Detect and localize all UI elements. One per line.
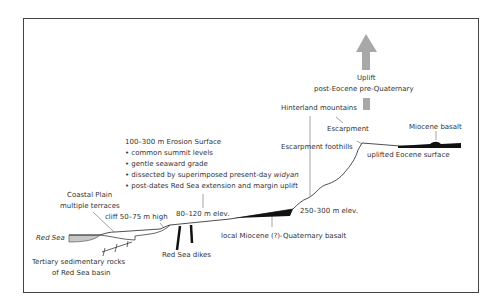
escarpment-leader <box>357 141 362 144</box>
dike-2 <box>191 225 192 243</box>
elev-80-120-label: 80–120 m elev. <box>176 210 229 219</box>
dike-1 <box>177 226 180 250</box>
multiple-terraces-label: multiple terraces <box>60 202 120 211</box>
uplift-arrow-stub <box>363 98 370 110</box>
miocene-basalt-label: Miocene basalt <box>409 123 462 132</box>
escarpment-label: Escarpment <box>327 125 369 134</box>
local-basalt-layer <box>228 209 293 219</box>
escarpment-foothills-label: Escarpment foothills <box>281 143 353 152</box>
erosion-point: • dissected by superimposed present-day … <box>125 171 299 180</box>
erosion-point: • post-dates Red Sea extension and margi… <box>125 182 298 191</box>
red-sea-water <box>69 235 100 242</box>
miocene-basalt-layer <box>398 142 461 148</box>
widyan-term: widyan <box>274 171 299 179</box>
uplift-arrow-icon <box>356 34 377 70</box>
coastal-plain-label: Coastal Plain <box>67 191 112 200</box>
tertiary-label-1: Tertiary sedimentary rocks <box>32 258 125 267</box>
elev-250-300-label: 250–300 m elev. <box>300 207 358 216</box>
uplifted-surface-label: uplifted Eocene surface <box>367 151 450 160</box>
tertiary-label-2: of Red Sea basin <box>52 269 111 278</box>
hinterland-leader <box>336 117 343 123</box>
red-sea-label: Red Sea <box>36 234 65 243</box>
hinterland-label: Hinterland mountains <box>281 104 357 113</box>
red-sea-dikes-label: Red Sea dikes <box>162 251 211 260</box>
fault-marks <box>102 241 132 256</box>
erosion-title: 100–300 m Erosion Surface <box>125 138 221 147</box>
cliff-leader <box>160 223 164 228</box>
uplift-period-label: post-Eocene pre-Quaternary <box>314 85 414 94</box>
erosion-point: • common summit levels <box>125 149 213 158</box>
uplift-label: Uplift <box>357 74 376 83</box>
erosion-point: • gentle seaward grade <box>125 160 208 169</box>
cliff-label: cliff 50–75 m high <box>105 213 168 222</box>
erosion-point-text: • dissected by superimposed present-day <box>125 171 274 179</box>
local-basalt-label: local Miocene (?)-Quaternary basalt <box>221 232 346 241</box>
